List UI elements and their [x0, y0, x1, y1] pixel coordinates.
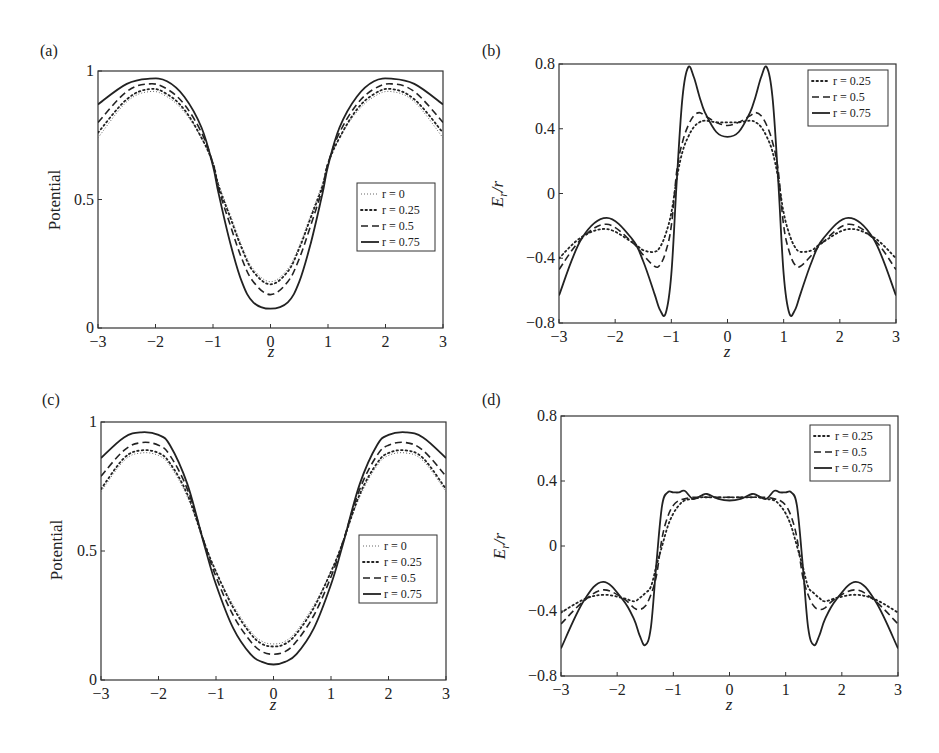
y-tick-label: −0.8	[528, 667, 557, 684]
panel-label-d: (d)	[482, 391, 501, 409]
series-line	[561, 497, 898, 624]
y-tick-label: −0.4	[528, 602, 557, 619]
y-tick-label: 0.8	[537, 407, 557, 424]
legend-label: r = 0.25	[382, 203, 420, 217]
series-line	[559, 121, 896, 259]
x-tick-label: 0	[267, 333, 275, 350]
legend-label: r = 0.75	[382, 235, 420, 249]
legend: r = 0r = 0.25r = 0.5r = 0.75	[359, 535, 437, 603]
y-tick-label: 1	[86, 62, 94, 79]
x-tick-label: 1	[327, 685, 335, 702]
x-tick-label: 3	[892, 328, 900, 345]
x-tick-label: −1	[665, 681, 682, 698]
x-tick-label: −2	[147, 333, 164, 350]
series-line	[561, 497, 898, 612]
x-tick-label: −2	[150, 685, 167, 702]
x-tick-label: −1	[204, 333, 221, 350]
y-tick-label: 0.4	[537, 472, 557, 489]
x-tick-label: 1	[782, 681, 790, 698]
x-tick-label: 0	[724, 328, 732, 345]
legend: r = 0.25r = 0.5r = 0.75	[808, 70, 888, 126]
x-tick-label: −2	[609, 681, 626, 698]
x-tick-label: 3	[442, 685, 450, 702]
y-axis-label-a: Potential	[45, 170, 64, 231]
y-tick-label: 0.4	[535, 120, 555, 137]
y-tick-label: 0	[86, 319, 94, 336]
legend-label: r = 0	[384, 539, 407, 553]
x-tick-label: 2	[838, 681, 846, 698]
y-tick-label: 0	[547, 185, 555, 202]
legend: r = 0r = 0.25r = 0.5r = 0.75	[357, 183, 435, 251]
panel-b: (b) Er/r z −3−2−10123−0.8−0.400.40.8r = …	[482, 42, 900, 361]
panel-label-b: (b)	[482, 42, 501, 60]
y-tick-label: 0.5	[74, 191, 94, 208]
y-axis-label-c: Potential	[47, 520, 66, 581]
y-tick-label: 0.8	[535, 55, 555, 72]
legend-label: r = 0.75	[384, 587, 422, 601]
legend-label: r = 0.25	[835, 429, 873, 443]
legend-label: r = 0	[382, 187, 405, 201]
legend-label: r = 0.75	[835, 461, 873, 475]
series-line	[561, 490, 898, 648]
x-tick-label: 3	[894, 681, 902, 698]
figure: (a) Potential z −3−2−1012300.51r = 0r = …	[0, 0, 939, 753]
x-tick-label: 2	[385, 685, 393, 702]
x-tick-label: −2	[607, 328, 624, 345]
y-tick-label: −0.4	[526, 249, 555, 266]
x-tick-label: 0	[726, 681, 734, 698]
panel-c: (c) Potential z −3−2−1012300.51r = 0r = …	[42, 391, 450, 714]
y-tick-label: 0	[549, 537, 557, 554]
y-tick-label: −0.8	[526, 314, 555, 331]
panel-d: (d) Er/r z −3−2−10123−0.8−0.400.40.8r = …	[482, 391, 902, 714]
x-tick-label: 1	[780, 328, 788, 345]
panel-label-a: (a)	[40, 42, 58, 60]
x-tick-label: 2	[836, 328, 844, 345]
legend-label: r = 0.25	[384, 555, 422, 569]
y-tick-label: 1	[89, 413, 97, 430]
y-axis-label-d: Er/r	[490, 532, 512, 560]
legend-label: r = 0.5	[384, 571, 416, 585]
x-tick-label: −1	[663, 328, 680, 345]
panel-a: (a) Potential z −3−2−1012300.51r = 0r = …	[40, 42, 447, 361]
legend-label: r = 0.5	[835, 445, 867, 459]
x-tick-label: 1	[324, 333, 332, 350]
legend-label: r = 0.5	[833, 90, 865, 104]
x-tick-label: 3	[439, 333, 447, 350]
x-tick-label: 2	[382, 333, 390, 350]
y-tick-label: 0	[89, 671, 97, 688]
x-tick-label: −1	[207, 685, 224, 702]
x-tick-label: 0	[270, 685, 278, 702]
legend-label: r = 0.25	[833, 74, 871, 88]
legend: r = 0.25r = 0.5r = 0.75	[810, 425, 890, 481]
y-tick-label: 0.5	[77, 542, 97, 559]
legend-label: r = 0.5	[382, 219, 414, 233]
y-axis-label-b: Er/r	[488, 180, 510, 208]
legend-label: r = 0.75	[833, 106, 871, 120]
panel-label-c: (c)	[42, 391, 60, 409]
